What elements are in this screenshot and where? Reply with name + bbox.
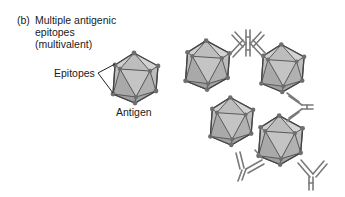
epitope-bracket-icon (98, 64, 115, 93)
single-antigen (111, 51, 161, 106)
antigen-antibody-diagram (0, 0, 345, 197)
antigen-cluster (183, 38, 306, 167)
